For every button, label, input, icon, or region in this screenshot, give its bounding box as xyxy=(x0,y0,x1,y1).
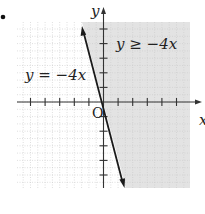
line-arrow-bottom-icon xyxy=(119,178,125,188)
region-inequality-label: y ≥ −4x xyxy=(115,35,178,53)
y-axis-arrow-icon xyxy=(101,7,106,14)
inequality-graph: y x O y = −4x y ≥ −4x xyxy=(0,0,205,214)
x-axis-arrow-icon xyxy=(195,100,202,105)
x-axis-label: x xyxy=(199,111,205,129)
y-axis-label: y xyxy=(90,2,100,20)
line-equation-label: y = −4x xyxy=(24,66,87,84)
origin-label: O xyxy=(92,105,103,121)
list-bullet xyxy=(1,15,6,20)
